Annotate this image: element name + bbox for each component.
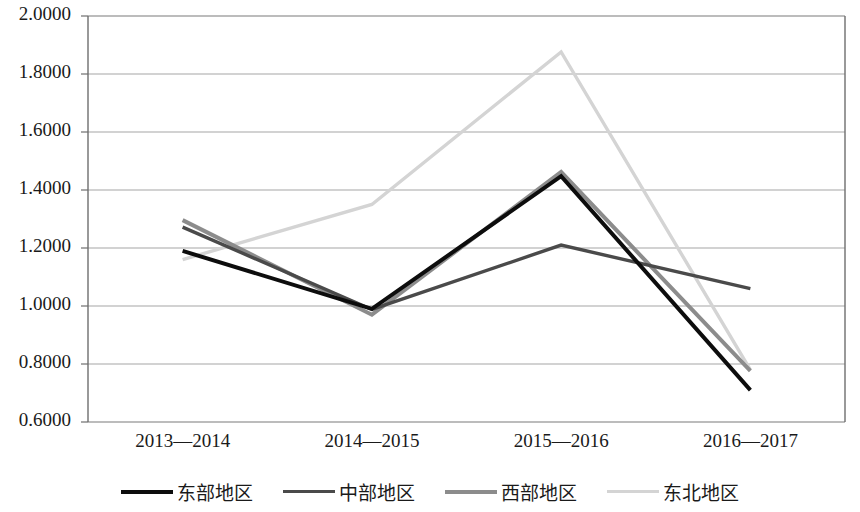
legend-label: 东部地区 xyxy=(177,478,253,505)
plot-border xyxy=(81,16,845,422)
legend-line-swatch xyxy=(607,490,659,493)
y-axis-tick-label: 0.8000 xyxy=(0,351,71,373)
legend-item[interactable]: 西部地区 xyxy=(445,478,577,505)
series-line xyxy=(183,52,751,370)
legend-label: 东北地区 xyxy=(663,478,739,505)
y-axis-tick-label: 0.6000 xyxy=(0,409,71,431)
legend-item[interactable]: 中部地区 xyxy=(283,478,415,505)
y-axis-tick-label: 1.6000 xyxy=(0,119,71,141)
legend-line-swatch xyxy=(445,490,497,494)
x-axis-tick-label: 2014—2015 xyxy=(277,430,466,452)
x-axis-tick-label: 2016—2017 xyxy=(656,430,845,452)
legend-item[interactable]: 东北地区 xyxy=(607,478,739,505)
y-axis-tick-label: 1.2000 xyxy=(0,235,71,257)
chart-legend: 东部地区中部地区西部地区东北地区 xyxy=(0,478,860,505)
x-axis-tick-label: 2015—2016 xyxy=(467,430,656,452)
y-axis-tick-label: 1.4000 xyxy=(0,177,71,199)
x-axis-tick-label: 2013—2014 xyxy=(88,430,277,452)
series-line xyxy=(183,227,751,309)
y-axis-tick-label: 1.0000 xyxy=(0,293,71,315)
legend-item[interactable]: 东部地区 xyxy=(121,478,253,505)
y-axis-tick-label: 2.0000 xyxy=(0,3,71,25)
legend-label: 中部地区 xyxy=(339,478,415,505)
legend-label: 西部地区 xyxy=(501,478,577,505)
legend-line-swatch xyxy=(283,490,335,493)
gridlines-group xyxy=(88,16,845,422)
line-chart: 2.00001.80001.60001.40001.20001.00000.80… xyxy=(0,0,860,512)
series-line xyxy=(183,172,751,371)
series-lines-group xyxy=(183,52,751,390)
legend-line-swatch xyxy=(121,490,173,494)
y-axis-tick-label: 1.8000 xyxy=(0,61,71,83)
